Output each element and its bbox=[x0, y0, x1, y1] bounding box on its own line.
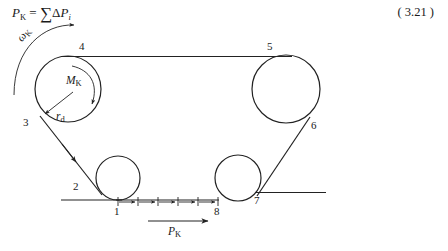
resultant-force-label: PK bbox=[168, 225, 181, 239]
radius-subscript: d bbox=[60, 114, 64, 124]
node-label-5: 5 bbox=[267, 40, 273, 52]
lower-left-idler bbox=[96, 156, 140, 200]
node-label-3: 3 bbox=[23, 116, 29, 128]
node-label-1: 1 bbox=[114, 205, 120, 217]
belt-span-6-7 bbox=[257, 117, 310, 196]
figure-page: PK = ∑ΔPi ( 3.21 ) bbox=[0, 0, 448, 251]
moment-symbol: M bbox=[66, 74, 76, 86]
force-symbol: P bbox=[168, 225, 175, 237]
node-label-7: 7 bbox=[254, 194, 260, 206]
node-label-2: 2 bbox=[73, 180, 79, 192]
radius-label: rd bbox=[56, 110, 65, 124]
top-right-pulley bbox=[252, 55, 320, 123]
distributed-force-chain bbox=[118, 197, 218, 206]
force-subscript: K bbox=[175, 229, 181, 239]
node-label-8: 8 bbox=[214, 205, 220, 217]
node-label-4: 4 bbox=[79, 40, 85, 52]
driver-pulley bbox=[35, 56, 101, 122]
belt-drive-diagram bbox=[0, 0, 448, 251]
moment-subscript: K bbox=[76, 78, 82, 88]
belt-direction-arrow-3-2 bbox=[62, 144, 76, 162]
node-label-6: 6 bbox=[311, 119, 317, 131]
torque-label: MK bbox=[66, 74, 82, 88]
